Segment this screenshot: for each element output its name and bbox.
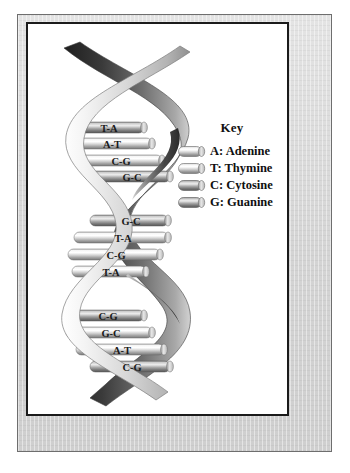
nucleotide-cylinder-icon xyxy=(178,163,206,174)
key-label: T: Thymine xyxy=(210,162,272,175)
nucleotide-cylinder-icon xyxy=(178,146,206,157)
dna-diagram-page: T-A A-T C-G G-C G-C T-A C-G T-A C-G G-C … xyxy=(0,0,350,473)
dna-double-helix-illustration xyxy=(28,24,287,414)
key-label: A: Adenine xyxy=(210,145,270,158)
nucleotide-cylinder-icon xyxy=(178,197,206,208)
key-label: C: Cytosine xyxy=(210,179,273,192)
key-title: Key xyxy=(178,120,286,136)
key-label: G: Guanine xyxy=(210,196,273,209)
key-row-guanine: G: Guanine xyxy=(178,194,286,211)
key-row-cytosine: C: Cytosine xyxy=(178,177,286,194)
rung xyxy=(72,266,149,277)
key-row-adenine: A: Adenine xyxy=(178,143,286,160)
nucleotide-cylinder-icon xyxy=(178,180,206,191)
key-legend: Key A: Adenine xyxy=(178,120,286,211)
key-row-thymine: T: Thymine xyxy=(178,160,286,177)
diagram-artwork: T-A A-T C-G G-C G-C T-A C-G T-A C-G G-C … xyxy=(28,24,287,414)
picture-frame-inner-panel: T-A A-T C-G G-C G-C T-A C-G T-A C-G G-C … xyxy=(26,22,289,416)
